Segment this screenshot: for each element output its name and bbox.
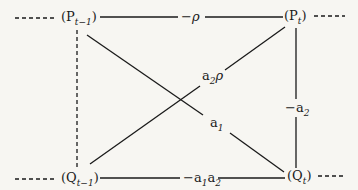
node-p-curr-sub: t	[298, 16, 302, 26]
node-q-curr-label: Q	[292, 168, 303, 183]
node-p-prev-label: P	[66, 9, 75, 24]
edge-bottom-label-sub2: 2	[215, 178, 221, 188]
edge-diag-up-a	[90, 86, 200, 164]
edge-diag-down-label-text: a	[210, 115, 218, 130]
edge-top-label: −ρ	[181, 10, 200, 23]
path-diagram: (Pt−1) (Pt) (Qt−1) (Qt) −ρ −a2 −a1a2 a1 …	[0, 0, 358, 190]
node-p-curr-label: P	[289, 8, 298, 23]
node-q-curr: (Qt)	[287, 169, 311, 186]
edge-diag-up-label-text: a	[202, 68, 210, 83]
node-p-prev-sub: t−1	[75, 17, 92, 27]
edge-diag-down-label-sub: 1	[218, 123, 224, 133]
edge-diag-down-label: a1	[210, 116, 224, 133]
node-q-prev: (Qt−1)	[61, 171, 99, 188]
node-q-prev-sub: t−1	[77, 178, 94, 188]
node-p-prev: (Pt−1)	[61, 10, 97, 27]
edge-right-label: −a2	[285, 101, 309, 118]
node-p-curr: (Pt)	[284, 9, 307, 26]
edge-diag-up-label-rho: ρ	[216, 68, 224, 83]
edge-right-label-sub: 2	[304, 108, 310, 118]
edge-diag-up-b	[225, 27, 285, 70]
edge-diag-up-label: a2ρ	[202, 69, 223, 86]
edge-right-label-text: −a	[285, 100, 304, 115]
node-q-prev-label: Q	[66, 170, 77, 185]
edge-bottom-label-a2: a	[207, 170, 215, 185]
diagram-lines	[0, 0, 358, 190]
edge-top-label-text: −ρ	[181, 9, 200, 24]
node-q-curr-sub: t	[303, 176, 307, 186]
edge-diag-down-b	[230, 133, 284, 172]
edge-bottom-label: −a1a2	[183, 171, 221, 188]
edge-diag-down-a	[87, 35, 203, 115]
edge-bottom-label-a1: a	[194, 170, 202, 185]
